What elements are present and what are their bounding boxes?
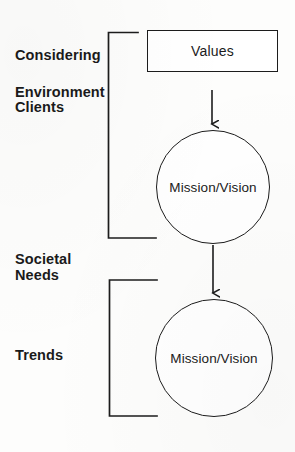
bracket-lower [110, 280, 158, 416]
label-environment: Environment [15, 84, 105, 100]
mission-vision-circle-1: Mission/Vision [156, 130, 270, 244]
label-considering: Considering [15, 47, 101, 63]
diagram-canvas: Considering Environment Clients Societal… [0, 0, 295, 452]
values-box-label: Values [191, 43, 234, 59]
mission-vision-circle-2: Mission/Vision [155, 299, 273, 417]
label-clients: Clients [15, 99, 64, 115]
values-box: Values [147, 30, 278, 72]
label-trends: Trends [15, 347, 63, 363]
mission-vision-circle-1-label: Mission/Vision [169, 180, 256, 195]
label-societal: Societal [15, 251, 71, 267]
label-needs: Needs [15, 267, 59, 283]
mission-vision-circle-2-label: Mission/Vision [170, 351, 257, 366]
